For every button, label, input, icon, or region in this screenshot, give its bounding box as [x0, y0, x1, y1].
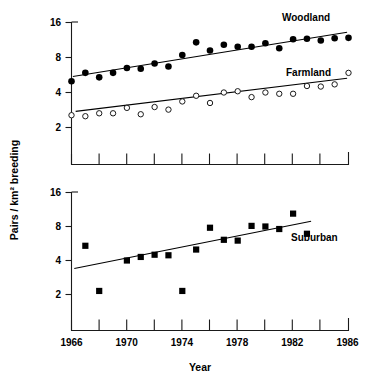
data-point: [249, 94, 254, 99]
data-point: [124, 257, 130, 263]
data-point: [138, 112, 143, 117]
x-ticklabel: 1974: [171, 337, 194, 348]
figure-panel-container: 16 8 4 2: [0, 0, 366, 381]
x-ticklabel: 1970: [116, 337, 139, 348]
data-point: [207, 47, 214, 54]
data-point: [124, 105, 129, 110]
data-point: [346, 70, 351, 75]
y-ticklabel: 4: [55, 255, 61, 266]
data-point: [110, 111, 115, 116]
x-axis-title: Year: [189, 361, 211, 373]
data-point: [180, 99, 185, 104]
data-point: [151, 60, 158, 67]
series-label-suburban: Suburban: [291, 232, 338, 243]
data-point: [345, 35, 352, 42]
x-ticklabel: 1978: [226, 337, 249, 348]
data-point: [263, 90, 268, 95]
data-point: [152, 252, 158, 258]
y-axis-title: Pairs / km² breeding: [8, 140, 20, 240]
data-point: [234, 43, 241, 50]
data-point: [179, 52, 186, 59]
data-point: [221, 90, 226, 95]
data-point: [331, 35, 338, 42]
data-point: [304, 83, 309, 88]
data-point: [110, 70, 117, 77]
data-point: [318, 84, 323, 89]
data-point: [207, 225, 213, 231]
bottom-panel-y-ticklabels: 16 8 4 2: [50, 187, 62, 300]
data-point: [276, 226, 282, 232]
data-point: [165, 252, 171, 258]
data-point: [96, 74, 103, 81]
x-ticklabel: 1986: [336, 337, 359, 348]
data-point: [166, 107, 171, 112]
data-point: [235, 89, 240, 94]
bottom-panel-y-ticks: [66, 193, 72, 295]
data-point: [276, 45, 283, 52]
y-ticklabel: 4: [55, 87, 61, 98]
top-panel: 16 8 4 2: [50, 12, 352, 165]
data-point: [193, 246, 199, 252]
data-point: [82, 70, 89, 77]
data-point: [221, 41, 228, 48]
data-point: [193, 39, 200, 46]
data-point: [221, 237, 227, 243]
y-ticklabel: 8: [55, 52, 61, 63]
suburban-trend-line: [74, 221, 311, 268]
data-point: [277, 91, 282, 96]
data-point: [69, 113, 74, 118]
x-ticklabel: 1982: [281, 337, 304, 348]
data-point: [262, 223, 268, 229]
y-ticklabel: 2: [55, 289, 61, 300]
bottom-panel-trendlines: [74, 221, 311, 268]
data-point: [138, 254, 144, 260]
suburban-series-points: [82, 211, 310, 295]
top-panel-y-ticklabels: 16 8 4 2: [50, 17, 62, 133]
data-point: [304, 35, 311, 42]
data-point: [318, 37, 325, 44]
y-ticklabel: 8: [55, 221, 61, 232]
y-ticklabel: 16: [50, 17, 62, 28]
top-panel-x-ticks: [72, 154, 320, 165]
data-point: [248, 43, 255, 50]
data-point: [137, 65, 144, 72]
data-point: [96, 288, 102, 294]
series-label-woodland: Woodland: [282, 12, 330, 23]
data-point: [82, 243, 88, 249]
data-point: [193, 93, 198, 98]
top-panel-axis-spines: [72, 22, 349, 165]
data-point: [248, 223, 254, 229]
bottom-panel: 16 8 4 2 Suburban: [50, 187, 359, 373]
data-point: [290, 91, 295, 96]
data-point: [207, 100, 212, 105]
data-point: [290, 211, 296, 217]
data-point: [97, 111, 102, 116]
y-ticklabel: 2: [55, 122, 61, 133]
data-point: [124, 65, 131, 72]
x-ticklabels: 1966 1970 1974 1978 1982 1986: [60, 337, 359, 348]
y-ticklabel: 16: [50, 187, 62, 198]
data-point: [83, 114, 88, 119]
chart-svg: 16 8 4 2: [0, 0, 366, 381]
data-point: [152, 104, 157, 109]
data-point: [68, 78, 75, 85]
data-point: [332, 82, 337, 87]
bottom-panel-x-ticks: [72, 320, 320, 331]
data-point: [262, 40, 269, 47]
data-point: [235, 238, 241, 244]
series-label-farmland: Farmland: [286, 67, 331, 78]
data-point: [165, 63, 172, 70]
top-panel-y-ticks: [66, 23, 72, 128]
data-point: [179, 288, 185, 294]
data-point: [290, 36, 297, 43]
x-ticklabel: 1966: [60, 337, 83, 348]
